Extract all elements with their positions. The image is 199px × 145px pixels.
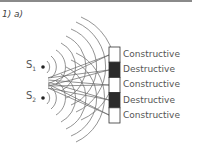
band-label-5: Constructive [123, 108, 199, 123]
screen [109, 47, 120, 123]
source-label-s1: S1 [26, 59, 36, 72]
band-label-3: Constructive [123, 77, 199, 92]
band-labels: Constructive Destructive Constructive De… [123, 47, 199, 123]
band-label-1: Constructive [123, 47, 199, 62]
source-dot-s1 [41, 65, 45, 69]
band-label-2: Destructive [123, 62, 199, 77]
source-label-s2: S2 [26, 90, 36, 103]
band-label-4: Destructive [123, 93, 199, 108]
source-dot-s2 [41, 96, 45, 100]
